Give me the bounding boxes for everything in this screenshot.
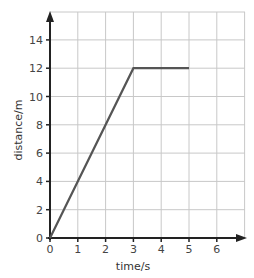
distance-time-chart: 0123456 02468101214 time/s distance/m (0, 0, 254, 278)
x-tick-label: 0 (47, 243, 54, 256)
y-tick-label: 14 (29, 34, 43, 47)
y-tick-labels: 02468101214 (29, 34, 43, 245)
x-tick-label: 4 (158, 243, 165, 256)
y-tick-label: 8 (36, 119, 43, 132)
y-tick-label: 0 (36, 232, 43, 245)
y-tick-label: 6 (36, 147, 43, 160)
x-axis-arrow-icon (236, 234, 247, 242)
x-tick-label: 2 (102, 243, 109, 256)
y-axis-arrow-icon (46, 11, 54, 22)
x-tick-labels: 0123456 (47, 243, 221, 256)
y-tick-label: 12 (29, 62, 43, 75)
x-tick-label: 3 (130, 243, 137, 256)
y-tick-label: 2 (36, 204, 43, 217)
x-tick-label: 5 (186, 243, 193, 256)
grid-lines (50, 12, 245, 238)
y-axis-title: distance/m (12, 99, 25, 160)
y-tick-label: 10 (29, 91, 43, 104)
x-tick-label: 6 (213, 243, 220, 256)
x-axis-title: time/s (116, 260, 151, 273)
x-tick-label: 1 (74, 243, 81, 256)
y-tick-label: 4 (36, 175, 43, 188)
